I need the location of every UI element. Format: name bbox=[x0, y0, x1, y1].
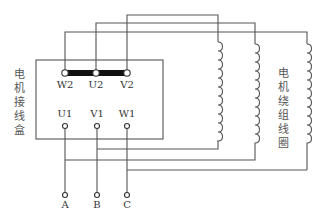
label-v2: V2 bbox=[120, 80, 134, 90]
motor-wiring-diagram: W2 U2 V2 U1 V1 W1 A B C 电机接线盒 电机绕组线圈 bbox=[0, 0, 323, 223]
wiring-svg bbox=[0, 0, 323, 223]
terminal-u2 bbox=[93, 70, 99, 76]
junction-box-label: 电机接线盒 bbox=[13, 68, 25, 138]
terminal-c bbox=[125, 193, 130, 198]
wire-coil2-to-u1 bbox=[65, 150, 255, 160]
label-u1: U1 bbox=[58, 109, 73, 119]
label-w2: W2 bbox=[57, 80, 74, 90]
label-c: C bbox=[123, 200, 131, 210]
winding-coil-label: 电机绕组线圈 bbox=[277, 67, 289, 151]
wire-coil1-to-v1 bbox=[97, 141, 218, 149]
label-a: A bbox=[61, 200, 68, 210]
terminal-v2 bbox=[124, 70, 130, 76]
wire-u2-to-coil2 bbox=[96, 23, 255, 72]
terminal-v1 bbox=[95, 124, 100, 129]
label-u2: U2 bbox=[89, 80, 104, 90]
label-b: B bbox=[93, 200, 100, 210]
label-w1: W1 bbox=[119, 109, 136, 119]
coil-3-icon bbox=[307, 44, 312, 170]
terminal-w1 bbox=[125, 124, 130, 129]
coil-1-icon bbox=[217, 42, 223, 141]
terminal-a bbox=[63, 193, 68, 198]
terminal-b bbox=[95, 193, 100, 198]
coil-2-icon bbox=[255, 44, 260, 150]
terminal-w2 bbox=[62, 70, 68, 76]
terminal-u1 bbox=[63, 124, 68, 129]
label-v1: V1 bbox=[90, 109, 104, 119]
wire-w2-to-coil3 bbox=[65, 32, 307, 72]
